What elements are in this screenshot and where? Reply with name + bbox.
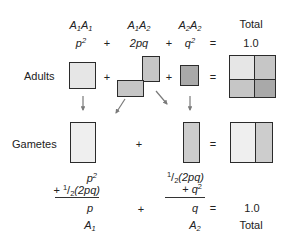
arrow-a1a2-to-a2-icon	[156, 91, 167, 104]
arrow-a1a2-to-a1-icon	[116, 99, 125, 113]
allele-a1-label: A1	[84, 219, 96, 231]
a1-frequency-p: p	[87, 202, 93, 214]
gametes-row-label: Gametes	[12, 138, 57, 150]
plus-sign: +	[136, 138, 142, 150]
a2-sum-divider	[165, 197, 205, 198]
equals-sign: =	[210, 138, 216, 150]
plus-sign: +	[138, 203, 144, 215]
allele-total-value: 1.0	[244, 202, 259, 214]
a2-sum-line2: + q2	[182, 183, 202, 195]
gamete-total-a2-part	[255, 122, 273, 163]
a1-sum-line1: p2	[87, 172, 97, 184]
a1-sum-divider	[55, 197, 99, 198]
a2-gamete-box	[183, 122, 200, 163]
a2-frequency-q: q	[192, 202, 198, 214]
gamete-total-a1-part	[230, 122, 257, 163]
a1-gamete-box	[70, 122, 96, 163]
allele-total-label: Total	[239, 219, 262, 231]
a1-sum-line2: + 1/2(2pq)	[53, 184, 100, 196]
allele-a2-label: A2	[189, 219, 201, 231]
gamete-total-rectangle	[230, 122, 273, 163]
equals-sign: =	[210, 202, 216, 214]
